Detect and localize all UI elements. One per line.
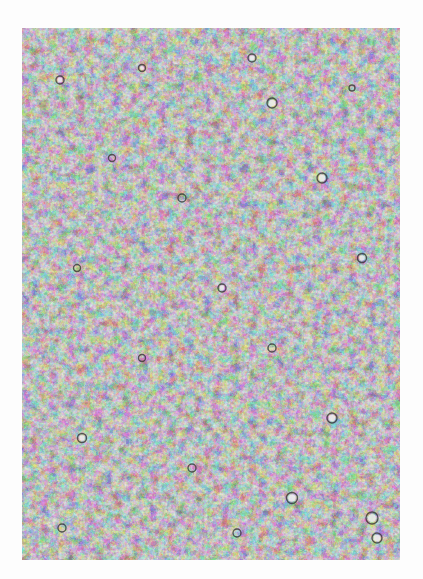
micrograph-texture xyxy=(22,28,400,560)
micrograph-image xyxy=(22,28,400,560)
page-background xyxy=(0,0,423,579)
